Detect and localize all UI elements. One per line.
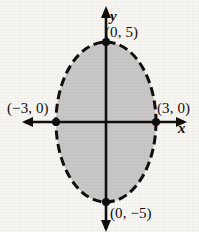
vertex-dot-right (152, 118, 160, 126)
coordinate-plot (0, 0, 199, 232)
label-right-vertex: (3, 0) (157, 101, 190, 116)
y-axis-down-arrow-icon (101, 220, 111, 232)
ellipse-figure: (0, 5) (0, −5) (−3, 0) (3, 0) x y (0, 0, 199, 232)
vertex-dot-left (52, 118, 60, 126)
vertex-dot-bottom (102, 198, 110, 206)
x-axis-left-arrow-icon (22, 117, 33, 127)
label-left-vertex: (−3, 0) (7, 101, 49, 116)
y-axis-label: y (110, 9, 117, 24)
x-axis-label: x (178, 121, 186, 136)
label-bottom-vertex: (0, −5) (110, 206, 152, 221)
label-top-vertex: (0, 5) (105, 25, 138, 40)
